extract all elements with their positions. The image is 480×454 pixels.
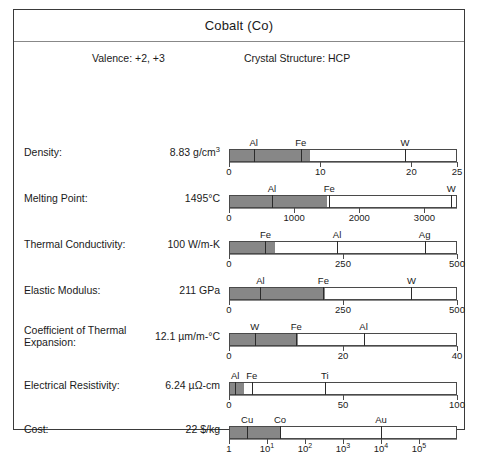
reference-marker	[235, 382, 236, 395]
reference-marker-label: Al	[231, 370, 239, 381]
reference-marker-label: Ag	[419, 229, 431, 240]
reference-marker-label: W	[401, 137, 410, 148]
meta-row: Valence: +2, +3 Crystal Structure: HCP	[14, 42, 464, 76]
reference-marker-label: Al	[249, 137, 257, 148]
reference-marker	[323, 287, 324, 300]
crystal-structure-text: Crystal Structure: HCP	[244, 52, 350, 64]
reference-marker	[265, 241, 266, 254]
reference-marker	[272, 195, 273, 208]
property-row: Electrical Resistivity:6.24 µΩ-cmAlFeTi0…	[14, 362, 464, 408]
property-scale: WFeAl02040	[229, 325, 457, 359]
property-scale: AlFeW0250500	[229, 279, 457, 313]
axis-tick-label: 20	[338, 350, 349, 361]
axis-tick-label: 104	[374, 443, 388, 454]
property-value: 22 $/kg	[186, 423, 220, 435]
valence-text: Valence: +2, +3	[92, 52, 165, 64]
reference-marker	[381, 426, 382, 439]
property-scale: AlFeTi050100	[229, 374, 457, 408]
reference-marker	[325, 382, 326, 395]
axis-line	[229, 208, 457, 209]
reference-marker-label: Co	[274, 414, 286, 425]
property-row: Cost:22 $/kgCuCoAu1101102103104105	[14, 406, 464, 452]
axis-tick-label: 40	[452, 350, 463, 361]
property-value: 8.83 g/cm3	[170, 146, 220, 158]
property-row: Elastic Modulus:211 GPaAlFeW0250500	[14, 267, 464, 313]
reference-marker	[252, 382, 253, 395]
property-label: Coefficient of Thermal Expansion:	[24, 324, 126, 348]
reference-marker	[364, 333, 365, 346]
reference-marker	[280, 426, 281, 439]
property-value: 6.24 µΩ-cm	[165, 379, 220, 391]
reference-marker-label: Fe	[246, 370, 257, 381]
property-label: Electrical Resistivity:	[24, 379, 120, 391]
page-title: Cobalt (Co)	[205, 18, 274, 33]
reference-marker-label: Fe	[295, 137, 306, 148]
card-title-bar: Cobalt (Co)	[14, 10, 464, 42]
reference-marker-label: W	[250, 321, 259, 332]
property-scale: CuCoAu1101102103104105	[229, 418, 457, 452]
property-bar-fill	[230, 334, 298, 345]
property-bar-fill	[230, 242, 275, 253]
reference-marker-label: Al	[268, 183, 276, 194]
property-label: Thermal Conductivity:	[24, 238, 126, 250]
property-bar-track	[229, 195, 457, 208]
property-scale: AlFeW0102025	[229, 141, 457, 175]
property-bar-fill	[230, 196, 327, 207]
property-label: Melting Point:	[24, 192, 88, 204]
property-label: Cost:	[24, 423, 49, 435]
property-label: Elastic Modulus:	[24, 284, 100, 296]
reference-marker	[451, 195, 452, 208]
property-scale: FeAlAg0250500	[229, 233, 457, 267]
property-label: Density:	[24, 146, 62, 158]
reference-marker	[247, 426, 248, 439]
reference-marker-label: W	[407, 275, 416, 286]
reference-marker-label: Fe	[260, 229, 271, 240]
reference-marker	[260, 287, 261, 300]
reference-marker	[254, 149, 255, 162]
reference-marker-label: Al	[359, 321, 367, 332]
property-bar-fill	[230, 383, 244, 394]
property-bar-fill	[230, 427, 281, 438]
reference-marker-label: Fe	[291, 321, 302, 332]
reference-marker-label: W	[447, 183, 456, 194]
property-value: 12.1 µm/m-°C	[155, 330, 220, 342]
reference-marker-label: Cu	[241, 414, 253, 425]
axis-tick-label: 102	[298, 443, 312, 454]
axis-tick-label: 1	[226, 443, 231, 454]
property-value: 100 W/m-K	[167, 238, 220, 250]
reference-marker-label: Fe	[318, 275, 329, 286]
property-bar-track	[229, 241, 457, 254]
reference-marker-label: Au	[375, 414, 387, 425]
reference-marker-label: Ti	[321, 370, 329, 381]
property-bar-fill	[230, 288, 325, 299]
property-bar-track	[229, 333, 457, 346]
reference-marker-label: Al	[333, 229, 341, 240]
property-row: Thermal Conductivity:100 W/m-KFeAlAg0250…	[14, 221, 464, 267]
property-bar-track	[229, 382, 457, 395]
reference-marker	[337, 241, 338, 254]
axis-tick-label: 105	[412, 443, 426, 454]
property-bar-track	[229, 149, 457, 162]
reference-marker	[301, 149, 302, 162]
reference-marker	[255, 333, 256, 346]
reference-marker	[405, 149, 406, 162]
axis-tick-label: 101	[260, 443, 274, 454]
property-row: Density:8.83 g/cm3AlFeW0102025	[14, 129, 464, 175]
property-bar-track	[229, 426, 457, 439]
reference-marker-label: Al	[256, 275, 264, 286]
property-value: 211 GPa	[179, 284, 220, 296]
property-row: Coefficient of Thermal Expansion:12.1 µm…	[14, 313, 464, 359]
axis-tick-label: 103	[336, 443, 350, 454]
axis-line	[229, 162, 457, 163]
property-row: Melting Point:1495°CAlFeW0100020003000	[14, 175, 464, 221]
reference-marker	[329, 195, 330, 208]
axis-tick-label: 0	[226, 350, 231, 361]
reference-marker	[425, 241, 426, 254]
property-card: Cobalt (Co) Valence: +2, +3 Crystal Stru…	[13, 9, 465, 430]
reference-marker	[296, 333, 297, 346]
reference-marker	[411, 287, 412, 300]
property-bar-track	[229, 287, 457, 300]
reference-marker-label: Fe	[324, 183, 335, 194]
property-bar-fill	[230, 150, 310, 161]
property-scale: AlFeW0100020003000	[229, 187, 457, 221]
